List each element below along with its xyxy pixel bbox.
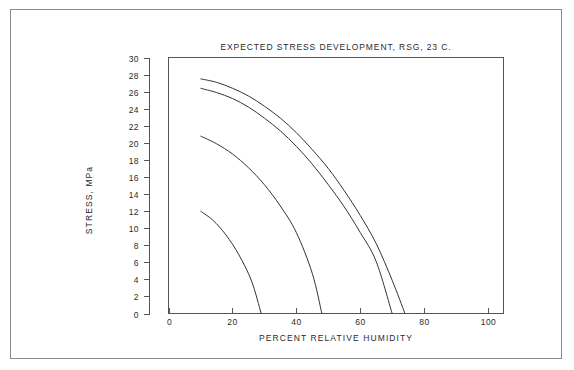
y-tick-label: 18 [129, 156, 139, 166]
y-tick-label: 30 [129, 54, 139, 64]
x-tick-label: 0 [167, 317, 172, 327]
curve-curve-1 [200, 79, 404, 314]
chart-title: EXPECTED STRESS DEVELOPMENT, RSG, 23 C. [220, 42, 451, 52]
x-tick-label: 100 [481, 317, 496, 327]
y-tick-label: 12 [129, 207, 139, 217]
data-curves [200, 79, 404, 314]
y-tick-label: 4 [134, 275, 139, 285]
y-tick-label: 10 [129, 224, 139, 234]
chart-figure: EXPECTED STRESS DEVELOPMENT, RSG, 23 C. … [0, 0, 574, 370]
y-tick-label: 24 [129, 105, 139, 115]
y-axis-tick-labels: 024681012141618202224262830 [129, 54, 139, 320]
chart-canvas: EXPECTED STRESS DEVELOPMENT, RSG, 23 C. … [0, 0, 574, 370]
x-axis-ticks [170, 308, 489, 314]
y-tick-label: 20 [129, 139, 139, 149]
x-tick-label: 20 [227, 317, 237, 327]
x-axis-tick-labels: 020406080100 [167, 317, 496, 327]
y-tick-label: 22 [129, 122, 139, 132]
y-tick-label: 0 [134, 310, 139, 320]
y-tick-label: 26 [129, 88, 139, 98]
y-tick-label: 28 [129, 71, 139, 81]
plot-frame [169, 58, 504, 314]
y-axis-ticks [144, 59, 150, 315]
y-axis-title: STRESS, MPa [84, 166, 94, 234]
x-tick-label: 60 [355, 317, 365, 327]
x-axis-title: PERCENT RELATIVE HUMIDITY [259, 333, 413, 343]
y-tick-label: 6 [134, 258, 139, 268]
curve-curve-2 [200, 88, 392, 313]
x-tick-label: 80 [419, 317, 429, 327]
x-tick-label: 40 [291, 317, 301, 327]
curve-curve-3 [200, 136, 321, 313]
y-tick-label: 14 [129, 190, 139, 200]
y-tick-label: 16 [129, 173, 139, 183]
y-tick-label: 2 [134, 292, 139, 302]
curve-curve-4 [200, 211, 261, 313]
y-tick-label: 8 [134, 241, 139, 251]
